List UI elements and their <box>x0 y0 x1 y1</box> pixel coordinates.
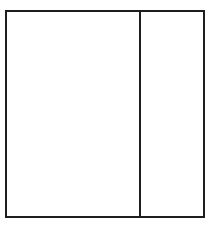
diagram-canvas <box>0 0 212 226</box>
right-panel <box>141 12 203 216</box>
outer-rectangle <box>5 10 205 218</box>
left-panel <box>7 12 141 216</box>
